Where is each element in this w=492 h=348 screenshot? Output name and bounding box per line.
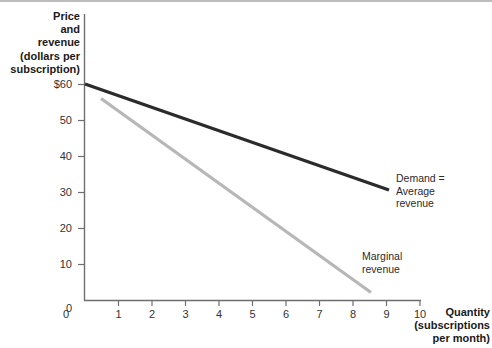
x-tick-label-0: 0 — [56, 308, 76, 320]
x-tick-label-9: 9 — [377, 308, 397, 320]
marginal-revenue-curve-label: Marginal revenue — [362, 250, 402, 275]
x-tick-label-4: 4 — [209, 308, 229, 320]
demand-curve-label: Demand = Average revenue — [396, 172, 445, 210]
y-tick-label-50: 50 — [38, 114, 72, 126]
y-tick-label-10: 10 — [38, 258, 72, 270]
y-tick-label-20: 20 — [38, 222, 72, 234]
marginal-revenue-curve — [101, 99, 371, 293]
demand-average-revenue-curve — [85, 84, 389, 190]
x-tick-label-6: 6 — [276, 308, 296, 320]
y-axis-title: Price and revenue (dollars per subscript… — [0, 10, 80, 76]
y-tick-label-30: 30 — [38, 186, 72, 198]
x-tick-label-5: 5 — [243, 308, 263, 320]
x-tick-label-2: 2 — [142, 308, 162, 320]
x-tick-label-3: 3 — [176, 308, 196, 320]
y-axis-ticks — [78, 85, 84, 265]
x-tick-label-1: 1 — [109, 308, 129, 320]
y-tick-label-60: $60 — [38, 78, 72, 90]
y-tick-label-40: 40 — [38, 150, 72, 162]
x-tick-label-8: 8 — [343, 308, 363, 320]
chart-figure: Price and revenue (dollars per subscript… — [0, 0, 492, 348]
x-tick-label-10: 10 — [410, 308, 430, 320]
x-tick-label-7: 7 — [310, 308, 330, 320]
